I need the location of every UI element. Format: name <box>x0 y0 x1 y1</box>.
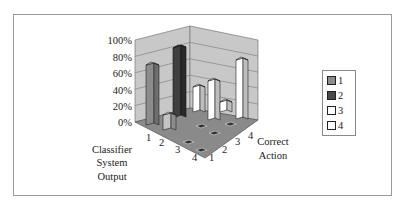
y-tick: 100% <box>108 35 133 46</box>
svg-text:Classifier: Classifier <box>92 144 133 155</box>
y-tick: 40% <box>113 85 133 96</box>
bar-series-3-a <box>193 84 205 112</box>
y-tick: 20% <box>113 101 133 112</box>
bar-series-1-cso2 <box>163 112 176 130</box>
x-axis-title: Classifier System Output <box>92 144 133 182</box>
y-axis-ticks: 100% 80% 60% 40% 20% 0% <box>108 35 133 128</box>
legend-item-2: 2 <box>327 89 343 101</box>
legend-label: 1 <box>338 75 343 86</box>
legend-swatch <box>327 91 336 100</box>
legend-item-3: 3 <box>327 104 343 116</box>
depth-tick: 4 <box>248 130 254 141</box>
legend-swatch <box>327 121 336 130</box>
chart-legend: 1 2 3 4 <box>322 70 356 136</box>
svg-text:Output: Output <box>97 171 126 182</box>
legend-item-1: 1 <box>327 74 343 86</box>
y-tick: 60% <box>113 68 133 79</box>
legend-item-4: 4 <box>327 119 343 131</box>
legend-swatch <box>327 76 336 85</box>
x-tick: 2 <box>159 137 164 148</box>
svg-text:System: System <box>97 157 128 168</box>
bar-series-3-b <box>208 78 220 120</box>
x-tick: 1 <box>146 132 151 143</box>
legend-label: 2 <box>338 90 343 101</box>
legend-label: 4 <box>338 120 343 131</box>
bar-series-2 <box>173 45 186 118</box>
depth-tick: 2 <box>222 144 227 155</box>
depth-tick: 1 <box>209 152 214 163</box>
svg-text:Action: Action <box>259 150 288 161</box>
legend-swatch <box>327 106 336 115</box>
depth-tick: 3 <box>235 136 240 147</box>
x-tick: 4 <box>192 152 198 163</box>
bar-series-4 <box>236 57 248 119</box>
y-tick: 80% <box>113 52 133 63</box>
svg-text:Correct: Correct <box>257 136 289 147</box>
depth-axis-title: Correct Action <box>257 136 289 161</box>
x-tick: 3 <box>175 144 180 155</box>
legend-label: 3 <box>338 105 343 116</box>
bar-series-3-c <box>220 99 232 112</box>
y-tick: 0% <box>118 117 132 128</box>
bar-series-1-cso1 <box>146 62 159 125</box>
